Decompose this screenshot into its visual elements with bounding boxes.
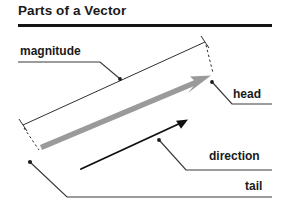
- magnitude-extension-left: [24, 128, 39, 150]
- diagram-page: Parts of a Vector magnitude: [0, 0, 284, 202]
- leader-line-magnitude: [18, 62, 119, 78]
- leader-dot-direction: [157, 138, 161, 142]
- vector-diagram-figure: [0, 0, 284, 202]
- magnitude-extension-right: [206, 45, 213, 73]
- magnitude-cap-right: [201, 36, 209, 48]
- label-direction: direction: [209, 150, 260, 162]
- leader-dot-head: [210, 80, 214, 84]
- magnitude-cap-left: [19, 119, 27, 131]
- label-head: head: [233, 88, 261, 100]
- leader-dot-tail: [28, 160, 32, 164]
- label-magnitude: magnitude: [20, 45, 81, 57]
- label-tail: tail: [245, 180, 262, 192]
- direction-arrow-shaft: [81, 122, 184, 170]
- leader-dot-magnitude: [118, 77, 122, 81]
- leader-line-tail: [31, 163, 272, 197]
- vector-arrow-shaft: [41, 82, 198, 148]
